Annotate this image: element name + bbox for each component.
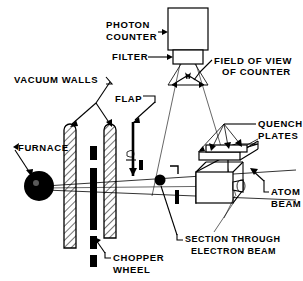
vacuum-wall-right <box>104 124 116 238</box>
flap <box>126 122 137 176</box>
quench-plates <box>199 139 258 160</box>
vacuum-walls-label: VACUUM WALLS <box>14 74 98 85</box>
electron-beam-section <box>155 175 166 186</box>
field-of-view-label-line2: OF COUNTER <box>222 66 291 77</box>
chopper-wheel <box>90 146 97 267</box>
apparatus-diagram: PHOTON COUNTER FILTER FIELD OF VIEW OF C… <box>0 0 303 281</box>
flap-label: FLAP <box>115 93 142 104</box>
label-chopper-wheel: CHOPPER WHEEL <box>94 237 164 275</box>
label-flap: FLAP <box>115 93 155 123</box>
quench-plates-label-line1: QUENCH <box>258 118 303 129</box>
photon-counter-label-line1: PHOTON <box>106 19 150 30</box>
photon-counter-label-line2: COUNTER <box>106 31 157 42</box>
section-label-line1: SECTION THROUGH <box>185 234 281 244</box>
atom-beam-label-line1: ATOM <box>271 186 301 197</box>
label-atom-beam: ATOM BEAM <box>250 168 301 209</box>
filter-label: FILTER <box>112 51 148 62</box>
label-photon-counter: PHOTON COUNTER <box>106 19 168 42</box>
section-label-line2: ELECTRON BEAM <box>191 246 276 256</box>
label-filter: FILTER <box>112 51 173 62</box>
electron-beam-box <box>196 155 245 203</box>
label-vacuum-walls: VACUUM WALLS <box>14 74 112 127</box>
furnace <box>24 171 54 201</box>
photon-counter <box>168 8 208 50</box>
quench-plates-label-line2: PLATES <box>258 130 298 141</box>
atom-beam-label-line2: BEAM <box>271 198 301 209</box>
field-of-view-label-line1: FIELD OF VIEW <box>214 55 292 66</box>
atom-beam <box>45 170 296 200</box>
chopper-wheel-label-line2: WHEEL <box>113 264 150 275</box>
chopper-wheel-label-line1: CHOPPER <box>113 252 164 263</box>
diagram-canvas: PHOTON COUNTER FILTER FIELD OF VIEW OF C… <box>0 0 303 281</box>
label-field-of-view: FIELD OF VIEW OF COUNTER <box>194 55 292 80</box>
filter <box>173 50 203 64</box>
furnace-label: FURNACE <box>18 142 69 153</box>
